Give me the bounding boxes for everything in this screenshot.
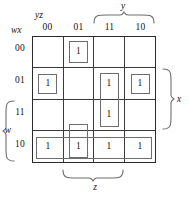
kmap-cell-r2c1[interactable]: [64, 100, 95, 131]
column-label-2: 11: [94, 23, 125, 33]
kmap-cell-r0c3[interactable]: [125, 37, 156, 68]
kmap-cell-r2c3[interactable]: [125, 100, 156, 131]
brace-x: [162, 68, 174, 132]
kmap-cell-r0c2[interactable]: [94, 37, 125, 68]
brace-z-label: z: [88, 183, 102, 193]
kmap-cell-r3c0[interactable]: 1: [33, 131, 64, 162]
cell-value: 1: [76, 142, 81, 152]
kmap-cell-r3c2[interactable]: 1: [94, 131, 125, 162]
row-variable-label: wx: [11, 26, 22, 36]
cell-value: 1: [137, 142, 142, 152]
kmap-cell-r1c0[interactable]: 1: [33, 68, 64, 99]
column-label-3: 10: [125, 23, 156, 33]
kmap-cell-r1c1[interactable]: [64, 68, 95, 99]
kmap-cell-r3c1[interactable]: 1: [64, 131, 95, 162]
kmap-cell-r1c3[interactable]: 1: [125, 68, 156, 99]
cell-value: 1: [45, 79, 50, 89]
column-label-0: 00: [32, 23, 63, 33]
kmap-cell-r2c0[interactable]: [33, 100, 64, 131]
cell-value: 1: [106, 110, 111, 120]
cell-value: 1: [106, 142, 111, 152]
row-label-0: 00: [12, 44, 28, 54]
kmap-grid: 1 1 1 1 1: [32, 36, 156, 163]
cell-value: 1: [76, 47, 81, 57]
brace-y-label: y: [121, 2, 125, 12]
kmap-cell-r1c2[interactable]: 1: [94, 68, 125, 99]
cell-value: 1: [45, 142, 50, 152]
brace-w-label: w: [0, 126, 11, 136]
kmap-cell-r0c0[interactable]: [33, 37, 64, 68]
column-label-1: 01: [63, 23, 94, 33]
kmap-cell-r0c1[interactable]: 1: [64, 37, 95, 68]
brace-z: [62, 170, 124, 182]
cell-value: 1: [106, 79, 111, 89]
karnaugh-map-figure: yz wx y 00 01 11 10 00 01 11 10 w x z 1: [0, 0, 189, 200]
brace-x-label: x: [177, 95, 181, 105]
kmap-cell-r3c3[interactable]: 1: [125, 131, 156, 162]
kmap-cell-r2c2[interactable]: 1: [94, 100, 125, 131]
cell-value: 1: [137, 79, 142, 89]
row-label-1: 01: [12, 76, 28, 86]
column-variable-label: yz: [35, 11, 43, 21]
